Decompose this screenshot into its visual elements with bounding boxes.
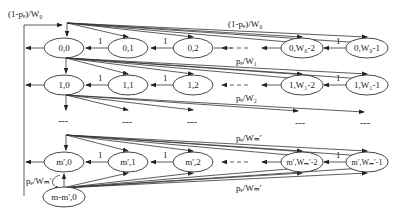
svg-text:1: 1	[163, 73, 168, 83]
row0-fan-edges: (1-pₑ)/W₀	[67, 19, 378, 44]
self-loop-label: pₑ/Wₘ′	[26, 176, 52, 186]
state-node: 0,W₀-2	[281, 38, 323, 58]
svg-text:m′,2: m′,2	[185, 157, 201, 167]
rowm-fan-top-label: pₑ/Wₘ′	[236, 133, 262, 143]
svg-text:1,1: 1,1	[122, 80, 133, 90]
svg-text:0,2: 0,2	[187, 43, 198, 53]
svg-text:m′,1: m′,1	[120, 157, 136, 167]
svg-text:m′,0: m′,0	[56, 157, 72, 167]
svg-text:1: 1	[336, 150, 341, 160]
state-node: 1,1	[108, 75, 148, 95]
svg-text:---: ---	[187, 116, 197, 127]
svg-text:---: ---	[295, 117, 305, 128]
state-node: m′,2	[173, 152, 213, 172]
row2-fan-edges: pₑ/W₂	[66, 93, 364, 112]
svg-text:1: 1	[98, 150, 103, 160]
top-left-label: (1-pₑ)/W₀	[8, 9, 42, 19]
state-node: 0,2	[173, 38, 213, 58]
state-node: 0,W₀-1	[346, 38, 388, 58]
row0-fan-label: (1-pₑ)/W₀	[228, 19, 262, 29]
state-node: 1,2	[173, 75, 213, 95]
svg-text:0,0: 0,0	[58, 43, 70, 53]
svg-text:---: ---	[58, 115, 68, 126]
row1-fan-edges: pₑ/W₁	[66, 56, 378, 80]
svg-text:1,0: 1,0	[58, 80, 70, 90]
rowm-fan-top-edges: pₑ/Wₘ′	[66, 133, 378, 157]
state-node: 1,W₁-2	[281, 75, 323, 95]
svg-text:1,2: 1,2	[187, 80, 198, 90]
svg-text:0,W₀-2: 0,W₀-2	[289, 43, 315, 53]
state-node: 1,0	[44, 75, 84, 95]
svg-text:1,W₁-1: 1,W₁-1	[354, 80, 380, 90]
state-node: m′,1	[108, 152, 148, 172]
svg-text:---: ---	[360, 117, 370, 128]
rowm-nodes: m′,0 m′,1 m′,2 m′,Wₘ′-2 m′,Wₘ′-1 m-m′,0	[43, 152, 388, 207]
svg-text:0,1: 0,1	[122, 43, 133, 53]
rowm-fan-bottom-edges: pₑ/Wₘ′	[62, 167, 378, 193]
row2-fan-label: pₑ/W₂	[236, 93, 257, 103]
state-node: 0,1	[108, 38, 148, 58]
svg-text:1: 1	[98, 36, 103, 46]
state-node: 1,W₁-1	[346, 75, 388, 95]
svg-text:m′,Wₘ′-1: m′,Wₘ′-1	[352, 158, 383, 167]
svg-text:---: ---	[122, 116, 132, 127]
rowm-fan-bottom-label: pₑ/Wₘ′	[236, 183, 262, 193]
state-node: m′,Wₘ′-1	[346, 152, 388, 172]
svg-text:m′,Wₘ′-2: m′,Wₘ′-2	[287, 158, 318, 167]
state-node: m′,Wₘ′-2	[281, 152, 323, 172]
state-node: 0,0	[44, 38, 84, 58]
svg-text:1,W₁-2: 1,W₁-2	[289, 80, 315, 90]
ellipsis-row: --- --- --- --- ---	[58, 115, 370, 128]
svg-text:m-m′,0: m-m′,0	[51, 192, 77, 202]
svg-text:0,W₀-1: 0,W₀-1	[354, 43, 380, 53]
state-node: m′,0	[44, 152, 84, 172]
svg-text:1: 1	[163, 150, 168, 160]
svg-text:1: 1	[336, 73, 341, 83]
svg-text:1: 1	[336, 36, 341, 46]
markov-chain-diagram: (1-pₑ)/W₀ (1-pₑ)/W₀ 1 1 1 0,0 0,1 0,2 0,…	[0, 0, 410, 218]
row1-fan-label: pₑ/W₁	[236, 56, 257, 66]
svg-text:1: 1	[163, 36, 168, 46]
state-node-extra: m-m′,0	[43, 187, 85, 207]
self-loop: pₑ/Wₘ′	[26, 174, 64, 189]
svg-text:1: 1	[98, 73, 103, 83]
